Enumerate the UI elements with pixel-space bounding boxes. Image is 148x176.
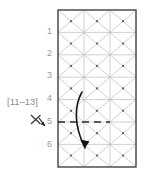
cross-marker-icon [31,115,41,124]
row-label-1: 1 [47,27,52,36]
mesh-svg [0,0,148,176]
row-label-2: 2 [47,49,52,58]
marker-arrow-icon [39,118,45,126]
mesh-nodes [70,20,124,157]
row-label-3: 3 [47,71,52,80]
row-label-5: 5 [47,117,52,126]
mesh-figure: 1 2 3 4 5 6 [11–13] [0,0,148,176]
row-label-4: 4 [47,94,52,103]
row-label-6: 6 [47,140,52,149]
range-annotation-label: [11–13] [7,97,38,107]
